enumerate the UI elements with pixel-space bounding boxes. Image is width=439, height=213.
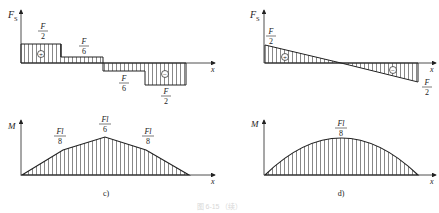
svg-text:Fl: Fl <box>336 119 345 128</box>
svg-text:8: 8 <box>339 129 343 138</box>
fraction-label: Fl 8 <box>335 119 347 138</box>
svg-text:F: F <box>163 87 169 96</box>
fraction-label: Fl 8 <box>54 127 66 146</box>
svg-text:8: 8 <box>146 137 150 146</box>
x-axis-label: x <box>210 177 215 186</box>
fraction-label: F 6 <box>119 74 129 93</box>
y-axis-label: M <box>250 119 259 129</box>
x-axis-label: x <box>429 177 434 186</box>
figure-caption: 图 6-15 （续） <box>0 201 439 211</box>
svg-text:F: F <box>121 74 127 83</box>
panel-d-shear-diagram: + − F S x F 2 F 2 <box>249 9 436 97</box>
svg-text:Fl: Fl <box>55 127 64 136</box>
fraction-label: F 2 <box>422 78 432 97</box>
svg-text:−: − <box>163 71 167 79</box>
panel-label-c: c) <box>103 189 110 198</box>
fraction-label: Fl 6 <box>99 115 111 134</box>
svg-text:2: 2 <box>41 32 45 41</box>
fraction-label: Fl 8 <box>142 127 154 146</box>
svg-text:+: + <box>283 54 287 62</box>
svg-text:+: + <box>39 51 43 59</box>
svg-text:F: F <box>424 78 430 87</box>
fraction-label: F 6 <box>79 37 89 56</box>
svg-text:F: F <box>40 22 46 31</box>
fraction-label: F 2 <box>38 22 48 41</box>
svg-text:Fl: Fl <box>100 115 109 124</box>
x-axis-label: x <box>429 65 434 74</box>
panel-label-d: d) <box>338 189 345 198</box>
svg-text:F: F <box>81 37 87 46</box>
svg-text:F: F <box>268 27 274 36</box>
fraction-label: F 2 <box>161 87 171 106</box>
svg-text:2: 2 <box>164 97 168 106</box>
svg-text:6: 6 <box>122 84 126 93</box>
svg-text:8: 8 <box>58 137 62 146</box>
svg-text:2: 2 <box>425 88 429 97</box>
svg-text:2: 2 <box>269 37 273 46</box>
fraction-label: F 2 <box>266 27 276 46</box>
panel-d-moment-diagram: M x Fl 8 d) <box>250 119 436 198</box>
svg-text:−: − <box>391 67 395 75</box>
svg-text:S: S <box>256 15 260 22</box>
svg-text:6: 6 <box>82 47 86 56</box>
panel-c-moment-diagram: M x Fl 8 Fl 6 Fl 8 c) <box>7 115 215 198</box>
y-axis-label: M <box>7 121 16 131</box>
svg-text:Fl: Fl <box>143 127 152 136</box>
svg-text:S: S <box>14 15 18 22</box>
x-axis-label: x <box>210 65 215 74</box>
panel-c-shear-diagram: + − F S x F 2 F 6 F 6 F 2 <box>7 9 215 106</box>
svg-text:6: 6 <box>103 125 107 134</box>
